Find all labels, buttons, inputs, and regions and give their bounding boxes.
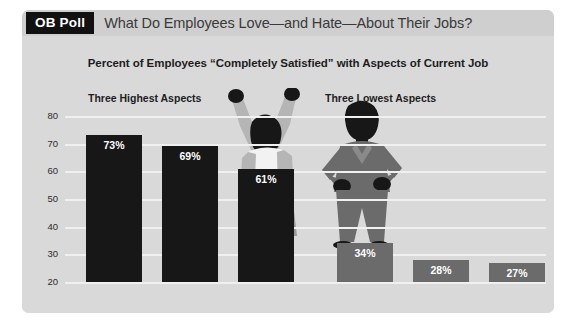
bar-highest-3[interactable]: 61% bbox=[238, 169, 294, 282]
gridline bbox=[65, 116, 546, 118]
group-caption-highest: Three Highest Aspects bbox=[88, 92, 201, 104]
chart-body: Percent of Employees “Completely Satisfi… bbox=[22, 36, 554, 313]
ob-poll-panel: OB Poll What Do Employees Love—and Hate—… bbox=[22, 10, 554, 313]
bar-value-label: 69% bbox=[179, 151, 200, 282]
y-axis-tick-label: 30 bbox=[34, 248, 58, 259]
bar-value-label: 61% bbox=[255, 174, 276, 282]
y-axis-tick-label: 20 bbox=[34, 276, 58, 287]
y-axis-tick-label: 40 bbox=[34, 221, 58, 232]
y-axis-tick-label: 50 bbox=[34, 193, 58, 204]
bar-lowest-5[interactable]: 28% bbox=[413, 260, 469, 282]
bar-value-label: 28% bbox=[430, 265, 451, 282]
bar-value-label: 34% bbox=[354, 248, 375, 282]
y-axis-tick-label: 70 bbox=[34, 138, 58, 149]
bar-value-label: 73% bbox=[103, 140, 124, 282]
poll-headline: What Do Employees Love—and Hate—About Th… bbox=[104, 15, 472, 31]
bar-lowest-4[interactable]: 34% bbox=[337, 243, 393, 282]
group-caption-lowest: Three Lowest Aspects bbox=[325, 92, 436, 104]
y-axis-tick-label: 60 bbox=[34, 165, 58, 176]
bar-lowest-6[interactable]: 27% bbox=[489, 263, 545, 282]
bar-highest-1[interactable]: 73% bbox=[86, 135, 142, 282]
gridline bbox=[65, 282, 546, 284]
bar-highest-2[interactable]: 69% bbox=[162, 146, 218, 282]
poll-header: OB Poll What Do Employees Love—and Hate—… bbox=[22, 10, 554, 36]
bar-value-label: 27% bbox=[506, 268, 527, 282]
y-axis-tick-label: 80 bbox=[34, 110, 58, 121]
plot-area: 2030405060708073%Workplacephysicalcondit… bbox=[65, 116, 546, 282]
chart-subtitle: Percent of Employees “Completely Satisfi… bbox=[22, 57, 554, 69]
ob-poll-badge: OB Poll bbox=[26, 12, 94, 35]
